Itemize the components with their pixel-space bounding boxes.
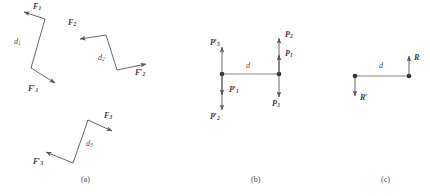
caption-panel-b: (b) [251,176,260,184]
label-distance-d3: d3 [86,140,93,149]
caption-panel-c: (c) [381,176,390,184]
couple-2-distance-line [106,35,117,70]
force-f3-prime-arrow [46,152,73,163]
label-force-p3-prime: P′3 [210,39,220,48]
couple-3-vectors [46,120,112,163]
label-distance-d1: d1 [14,38,21,47]
label-force-f2: F2 [68,19,76,28]
force-couple-figure: F1 d1 F′1 F2 d2 F′2 F3 d3 F′3 (a) P′3 d … [0,0,430,196]
label-force-p3: P3 [272,100,280,109]
couple-1-distance-line [31,19,45,68]
couple-1-vectors [24,12,55,83]
label-resultant-r: R [414,54,419,62]
label-panel-b-distance: d [246,62,250,70]
label-force-f3-prime: F′3 [33,158,43,167]
label-force-p1: P1 [285,50,293,59]
force-f3-arrow [88,120,112,131]
couple-2-vectors [80,35,146,70]
label-force-f3: F3 [104,112,112,121]
label-distance-d2: d2 [98,54,105,63]
label-force-f1-prime: F′1 [28,85,38,94]
label-panel-c-distance: d [379,62,383,70]
force-f1-arrow [24,12,45,19]
caption-panel-a: (a) [81,176,90,184]
label-force-p2: P2 [285,31,293,40]
label-resultant-r-prime: R′ [360,94,367,102]
label-force-f2-prime: F′2 [135,69,145,78]
force-f1-prime-arrow [31,68,55,83]
force-f2-arrow [80,35,106,39]
label-force-f1: F1 [33,3,41,12]
label-force-p1-prime: P′1 [229,86,239,95]
label-force-p2-prime: P′2 [210,113,220,122]
